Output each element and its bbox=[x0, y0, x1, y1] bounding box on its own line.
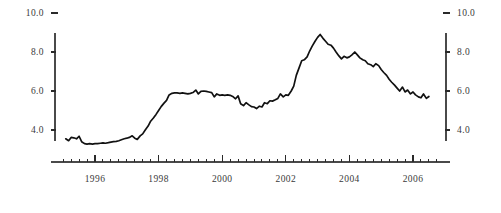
right-y-tick-label: 4.0 bbox=[457, 125, 470, 135]
x-tick-label: 2006 bbox=[403, 174, 424, 184]
data-series-group bbox=[66, 34, 429, 144]
x-tick-label: 1996 bbox=[85, 174, 106, 184]
x-tick-label: 2000 bbox=[212, 174, 233, 184]
left-y-tick-label: 6.0 bbox=[31, 86, 44, 96]
series-line bbox=[66, 34, 429, 144]
left-axis-tick-labels: 10.08.06.04.0 bbox=[26, 8, 44, 135]
chart-figure: 10.08.06.04.0 10.08.06.04.0 199619982000… bbox=[0, 0, 501, 213]
x-axis-tick-labels: 199619982000200220042006 bbox=[85, 174, 424, 184]
right-y-tick-label: 6.0 bbox=[457, 86, 470, 96]
right-axis-tick-labels: 10.08.06.04.0 bbox=[457, 8, 475, 135]
left-y-tick-label: 4.0 bbox=[31, 125, 44, 135]
x-tick-label: 1998 bbox=[148, 174, 169, 184]
left-y-tick-label: 8.0 bbox=[31, 47, 44, 57]
right-y-tick-label: 8.0 bbox=[457, 47, 470, 57]
right-y-tick-label: 10.0 bbox=[457, 8, 475, 18]
left-axis bbox=[51, 13, 58, 141]
left-y-tick-label: 10.0 bbox=[26, 8, 44, 18]
bottom-axis bbox=[51, 155, 450, 162]
x-tick-label: 2002 bbox=[275, 174, 296, 184]
right-axis bbox=[443, 13, 450, 141]
line-chart-canvas: 10.08.06.04.0 10.08.06.04.0 199619982000… bbox=[0, 0, 501, 213]
x-tick-label: 2004 bbox=[339, 174, 360, 184]
